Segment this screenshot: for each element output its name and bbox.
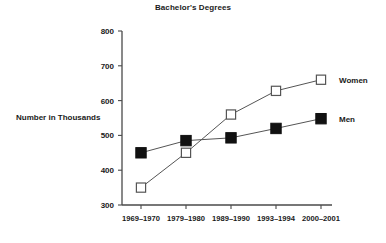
data-series [136,75,326,192]
y-tick-label: 800 [101,27,115,36]
data-point-men [271,123,281,133]
y-tick-label: 500 [101,131,115,140]
x-tick-label: 1993–1994 [257,214,296,223]
x-tick-label: 1979–1980 [167,214,205,223]
x-axis: 1969–19701979–19801989–19901993–19942000… [122,205,341,223]
legend: WomenMen [339,76,368,124]
data-point-men [316,113,326,123]
data-point-women [181,148,190,157]
x-tick-label: 2000–2001 [302,214,341,223]
data-point-men [181,135,191,145]
data-point-women [226,110,235,119]
data-point-women [136,183,145,192]
plot-area: 300400500600700800 1969–19701979–1980198… [0,0,386,243]
y-tick-label: 600 [101,97,115,106]
series-label-women: Women [339,76,368,85]
data-point-men [136,148,146,158]
series-label-men: Men [339,115,355,124]
y-tick-label: 300 [101,201,115,210]
data-point-men [226,133,236,143]
x-tick-label: 1989–1990 [212,214,250,223]
data-point-women [316,75,325,84]
y-tick-label: 400 [101,166,115,175]
y-axis: 300400500600700800 [101,27,122,210]
y-tick-label: 700 [101,62,115,71]
chart-container: Bachelor's Degrees Number in Thousands 3… [0,0,386,243]
x-tick-label: 1969–1970 [122,214,160,223]
data-point-women [271,86,280,95]
